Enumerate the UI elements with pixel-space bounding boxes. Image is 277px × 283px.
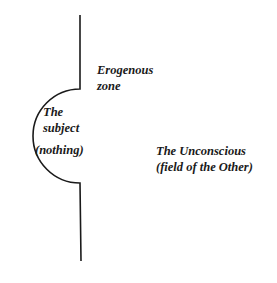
erogenous-zone-label: Erogenous zone xyxy=(97,62,153,94)
erogenous-zone-line1: Erogenous xyxy=(97,62,153,78)
nothing-label: (nothing) xyxy=(35,142,84,158)
erogenous-zone-line2: zone xyxy=(97,78,153,94)
boundary-line-with-semicircle xyxy=(33,15,81,261)
unconscious-line2: (field of the Other) xyxy=(156,159,253,175)
subject-line1: The xyxy=(43,104,79,120)
subject-line2: subject xyxy=(43,120,79,136)
unconscious-line1: The Unconscious xyxy=(156,143,253,159)
subject-label: The subject xyxy=(43,104,79,136)
unconscious-label: The Unconscious (field of the Other) xyxy=(156,143,253,175)
